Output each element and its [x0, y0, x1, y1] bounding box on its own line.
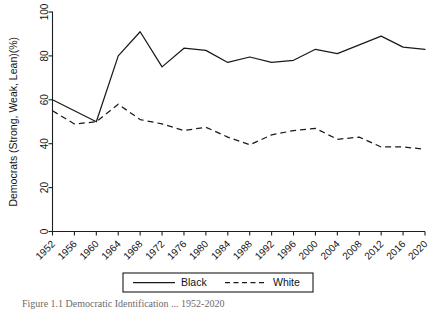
x-tick-label: 1996: [275, 238, 299, 262]
figure-container: 020406080100Democrats (Strong, Weak, Lea…: [0, 0, 437, 310]
x-tick-label: 2000: [296, 238, 320, 262]
x-tick-label: 1952: [33, 238, 57, 262]
x-tick-label: 2020: [406, 238, 430, 262]
x-tick-label: 1988: [231, 238, 255, 262]
x-tick-label: 1964: [99, 238, 123, 262]
line-chart: 020406080100Democrats (Strong, Weak, Lea…: [0, 0, 437, 310]
y-tick-label: 40: [39, 138, 50, 150]
x-tick-label: 2012: [362, 238, 386, 262]
x-tick-label: 2016: [384, 238, 408, 262]
x-tick-label: 2004: [318, 238, 342, 262]
y-tick-label: 0: [39, 228, 50, 234]
y-axis-title: Democrats (Strong, Weak, Lean)(%): [7, 37, 19, 207]
x-tick-label: 1992: [253, 238, 277, 262]
x-tick-label: 1968: [121, 238, 145, 262]
data-series-black: [53, 32, 426, 122]
legend-label-black: Black: [181, 276, 207, 288]
figure-caption: Figure 1.1 Democratic Identification ...…: [22, 298, 224, 309]
x-tick-label: 1984: [209, 238, 233, 262]
y-tick-label: 60: [39, 94, 50, 106]
y-tick-label: 80: [39, 50, 50, 62]
x-tick-label: 1980: [187, 238, 211, 262]
data-series-white: [53, 104, 426, 149]
x-tick-label: 1960: [77, 238, 101, 262]
x-tick-label: 1976: [165, 238, 189, 262]
legend-label-white: White: [273, 276, 300, 288]
x-tick-label: 2008: [340, 238, 364, 262]
y-tick-label: 20: [39, 182, 50, 194]
x-tick-label: 1972: [143, 238, 167, 262]
x-tick-label: 1956: [55, 238, 79, 262]
y-tick-label: 100: [39, 3, 50, 20]
